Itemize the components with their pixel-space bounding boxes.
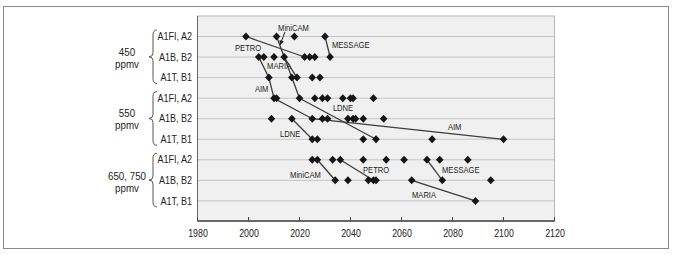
x-tick-label: 2060 <box>386 226 418 240</box>
x-tick-label: 2040 <box>335 226 367 240</box>
annotation-label: MARIA <box>412 190 436 201</box>
row-label: A1T, B1 <box>143 70 192 84</box>
row-label: A1FI, A2 <box>143 29 192 43</box>
annotation-label: MESSAGE <box>332 39 370 50</box>
row-label: A1B, B2 <box>143 111 192 125</box>
annotation-label: PETRO <box>235 42 261 53</box>
row-label: A1T, B1 <box>143 132 192 146</box>
x-tick-label: 2000 <box>233 226 265 240</box>
chart-plot: MiniCAMPETROMESSAGEMARIAAIMLDNELDNEAIMMi… <box>0 0 673 256</box>
row-label: A1FI, A2 <box>143 152 192 166</box>
row-label: A1T, B1 <box>143 194 192 208</box>
row-label: A1B, B2 <box>143 173 192 187</box>
x-tick-label: 2080 <box>437 226 469 240</box>
annotation-label: AIM <box>255 83 269 94</box>
annotation-label: AIM <box>448 121 462 132</box>
annotation-label: LDNE <box>333 102 353 113</box>
annotation-label: LDNE <box>280 128 300 139</box>
x-tick-label: 2100 <box>488 226 520 240</box>
annotation-label: MESSAGE <box>442 164 480 175</box>
row-label: A1B, B2 <box>143 50 192 64</box>
x-tick-label: 1980 <box>182 226 214 240</box>
row-label: A1FI, A2 <box>143 91 192 105</box>
x-tick-label: 2120 <box>539 226 571 240</box>
annotation-label: PETRO <box>363 164 389 175</box>
x-tick-label: 2020 <box>284 226 316 240</box>
annotation-label: MARIA <box>267 60 291 71</box>
annotation-label: MiniCAM <box>290 169 321 180</box>
annotation-label: MiniCAM <box>278 22 309 33</box>
